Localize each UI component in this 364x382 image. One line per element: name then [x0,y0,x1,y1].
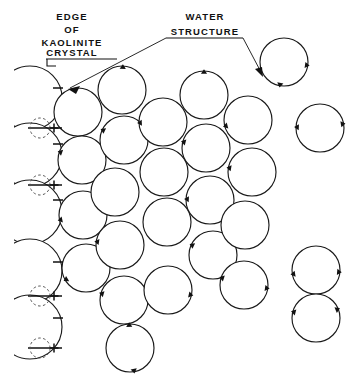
water-molecule-w7 [91,168,139,216]
kaolinite-water-structure-figure: EDGE OF KAOLINITE CRYSTAL WATER STRUCTUR… [0,0,364,382]
water-label-line-2: STRUCTURE [171,26,239,37]
edge-label-line-1: EDGE [56,11,87,22]
water-molecule-w1 [54,88,102,136]
water-molecule-w16 [182,124,230,172]
water-molecule-w8 [96,221,144,269]
water-label-line-1: WATER [185,11,224,22]
water-molecule-w21 [221,201,269,249]
water-molecule-w10 [106,324,154,372]
water-molecule-w19 [224,96,272,144]
water-molecule-w15 [180,71,228,119]
edge-label-line-4: CRYSTAL [46,47,98,58]
water-molecule-w9 [100,276,148,324]
edge-label-line-2: OF [64,24,79,35]
water-molecule-w13 [143,198,191,246]
water-molecule-w26 [292,294,340,342]
water-molecule-w5 [98,66,146,114]
water-molecule-w24 [296,104,344,152]
water-molecule-w25 [292,246,340,294]
water-molecule-w23 [260,38,308,86]
water-molecule-w14 [144,266,192,314]
water-molecule-w20 [228,148,276,196]
diagram-canvas: EDGE OF KAOLINITE CRYSTAL WATER STRUCTUR… [0,0,364,382]
water-molecule-w12 [140,148,188,196]
water-molecule-w22 [220,261,268,309]
water-molecule-w11 [139,98,187,146]
